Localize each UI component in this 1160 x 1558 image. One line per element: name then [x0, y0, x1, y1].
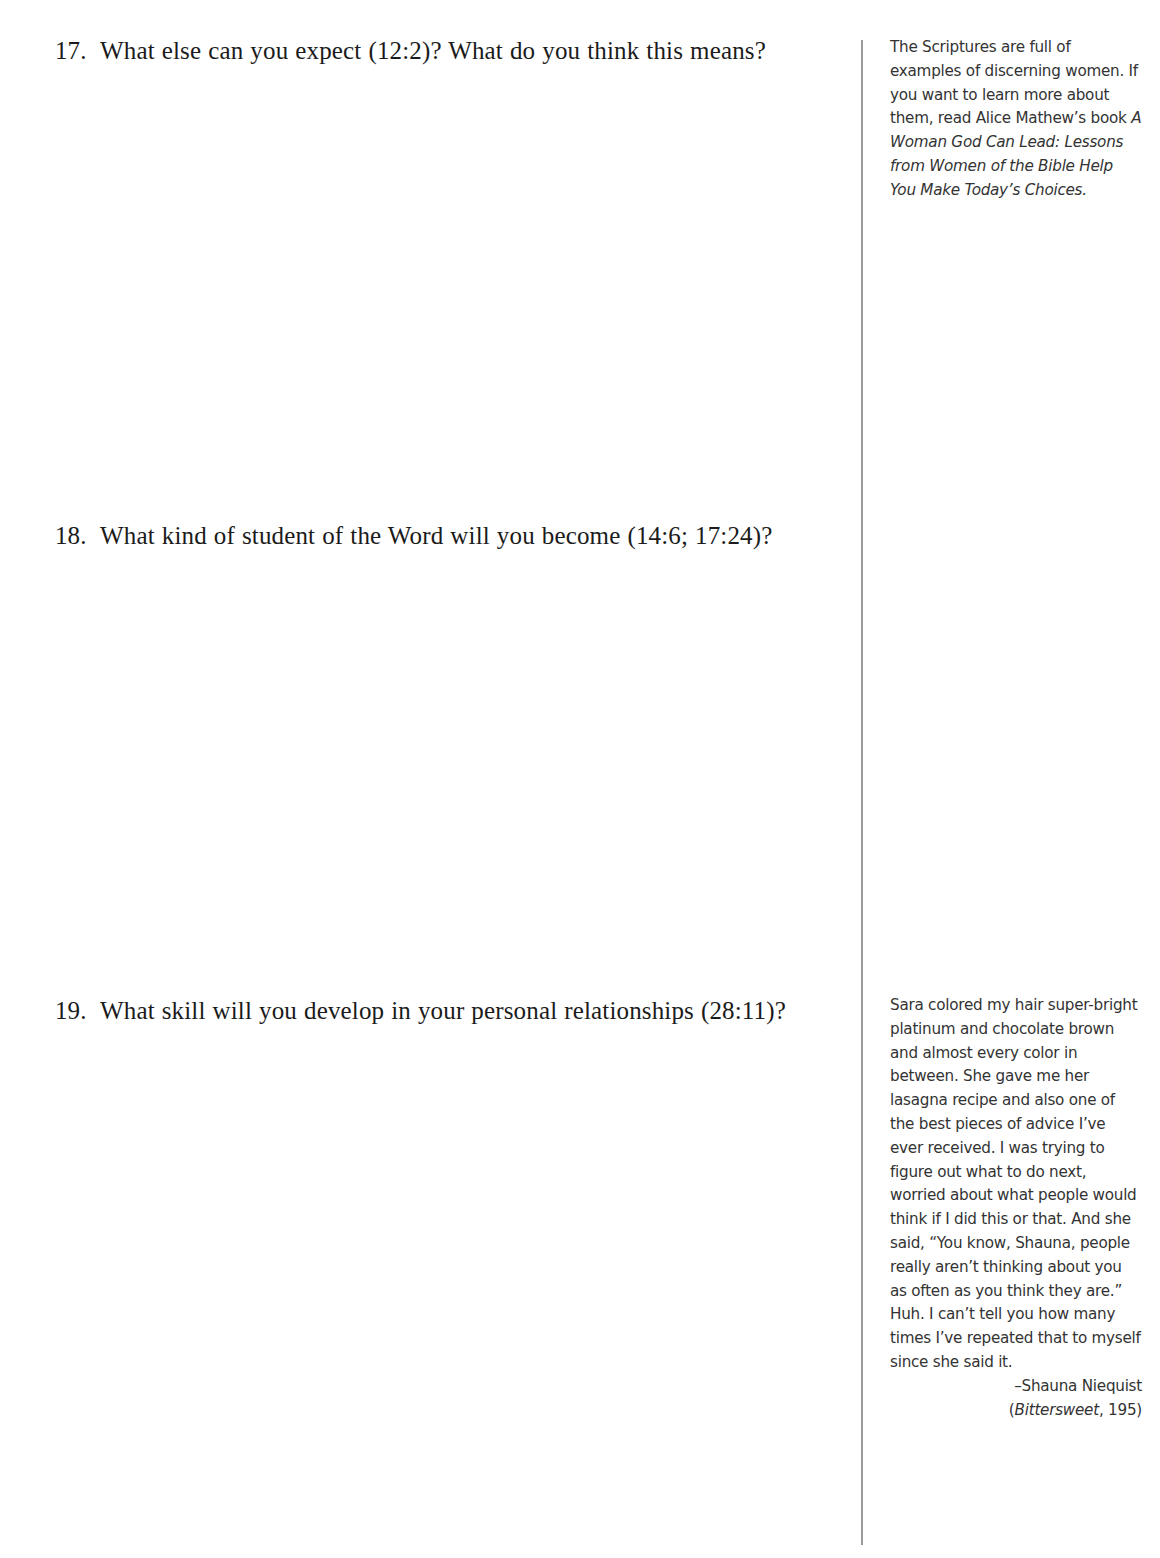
answer-area-18[interactable] — [98, 561, 798, 981]
question-19-number: 19. — [55, 996, 97, 1026]
question-17-text: What else can you expect (12:2)? What do… — [100, 36, 815, 66]
answer-area-17[interactable] — [98, 76, 798, 506]
workbook-page: 17. What else can you expect (12:2)? Wha… — [0, 0, 1160, 1558]
question-19: 19. What skill will you develop in your … — [55, 996, 815, 1026]
sidebar-quote-attribution: –Shauna Niequist — [890, 1375, 1142, 1399]
sidebar-quote-source-title: Bittersweet — [1015, 1401, 1099, 1419]
sidebar-quote-text: Sara colored my hair super-bright platin… — [890, 996, 1141, 1371]
sidebar-column: The Scriptures are full of examples of d… — [890, 0, 1142, 1558]
question-19-text: What skill will you develop in your pers… — [100, 996, 815, 1026]
question-17-number: 17. — [55, 36, 97, 66]
sidebar-note-scriptures: The Scriptures are full of examples of d… — [890, 36, 1142, 203]
sidebar-quote-source: (Bittersweet, 195) — [890, 1399, 1142, 1423]
sidebar-quote-source-page: , 195) — [1099, 1401, 1142, 1419]
question-17: 17. What else can you expect (12:2)? Wha… — [55, 36, 815, 66]
question-18: 18. What kind of student of the Word wil… — [55, 521, 815, 551]
question-18-text: What kind of student of the Word will yo… — [100, 521, 815, 551]
question-18-number: 18. — [55, 521, 97, 551]
sidebar-note-lead-text: The Scriptures are full of examples of d… — [890, 38, 1138, 127]
question-column: 17. What else can you expect (12:2)? Wha… — [0, 0, 845, 1558]
sidebar-note-quote: Sara colored my hair super-bright platin… — [890, 994, 1142, 1422]
answer-area-19[interactable] — [98, 1036, 798, 1516]
column-divider-rule — [861, 40, 863, 1545]
